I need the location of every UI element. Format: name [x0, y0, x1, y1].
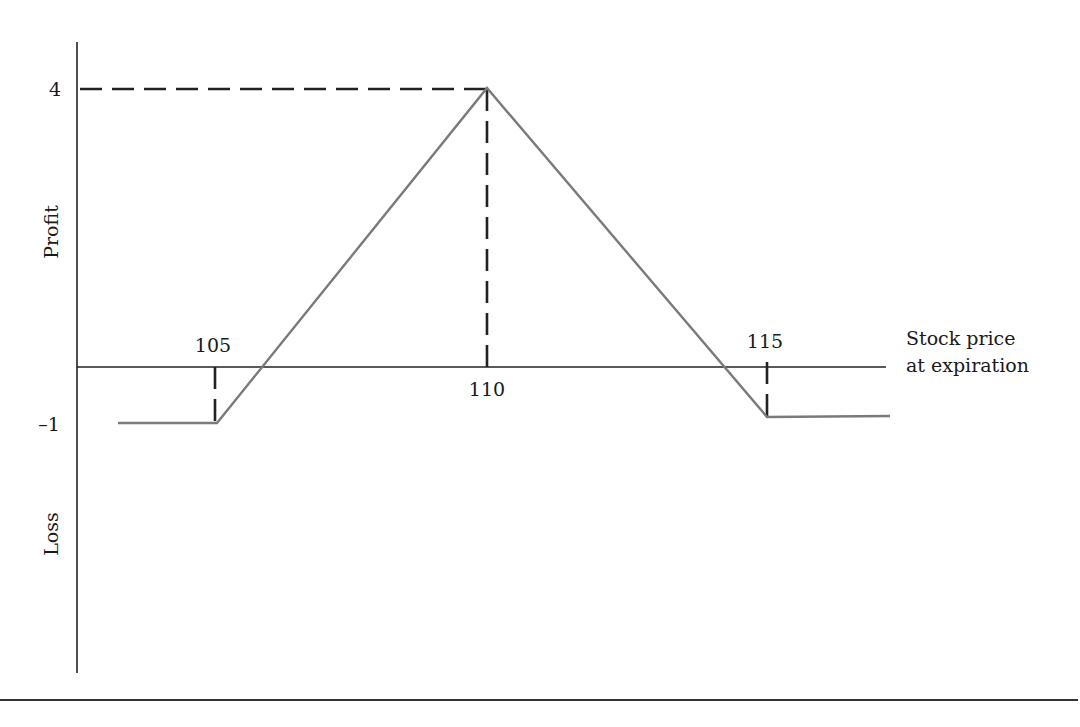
x-axis-label-line-1: Stock price [906, 327, 1016, 349]
y-tick-4: 4 [49, 78, 61, 100]
x-axis-label-line-2: at expiration [906, 354, 1029, 376]
payoff-line [118, 88, 890, 423]
x-tick-110: 110 [469, 378, 505, 400]
payoff-chart: 4 –1 105 110 115 Stock price at expirati… [0, 0, 1080, 727]
y-axis-label-profit: Profit [40, 205, 62, 259]
x-tick-105: 105 [195, 334, 231, 356]
y-axis-label-loss: Loss [40, 512, 62, 556]
y-tick-minus-1: –1 [38, 413, 60, 435]
x-tick-115: 115 [747, 330, 783, 352]
